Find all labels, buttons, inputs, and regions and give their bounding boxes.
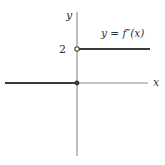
curve-label: y = f″(x) bbox=[100, 27, 144, 39]
y-tick-label-2: 2 bbox=[59, 43, 66, 56]
y-axis-label: y bbox=[65, 9, 73, 22]
filled-point-icon bbox=[75, 81, 80, 86]
x-axis-label: x bbox=[153, 76, 160, 89]
graph-of-second-derivative: y x 2 y = f″(x) bbox=[0, 0, 165, 165]
open-point-icon bbox=[75, 47, 79, 51]
